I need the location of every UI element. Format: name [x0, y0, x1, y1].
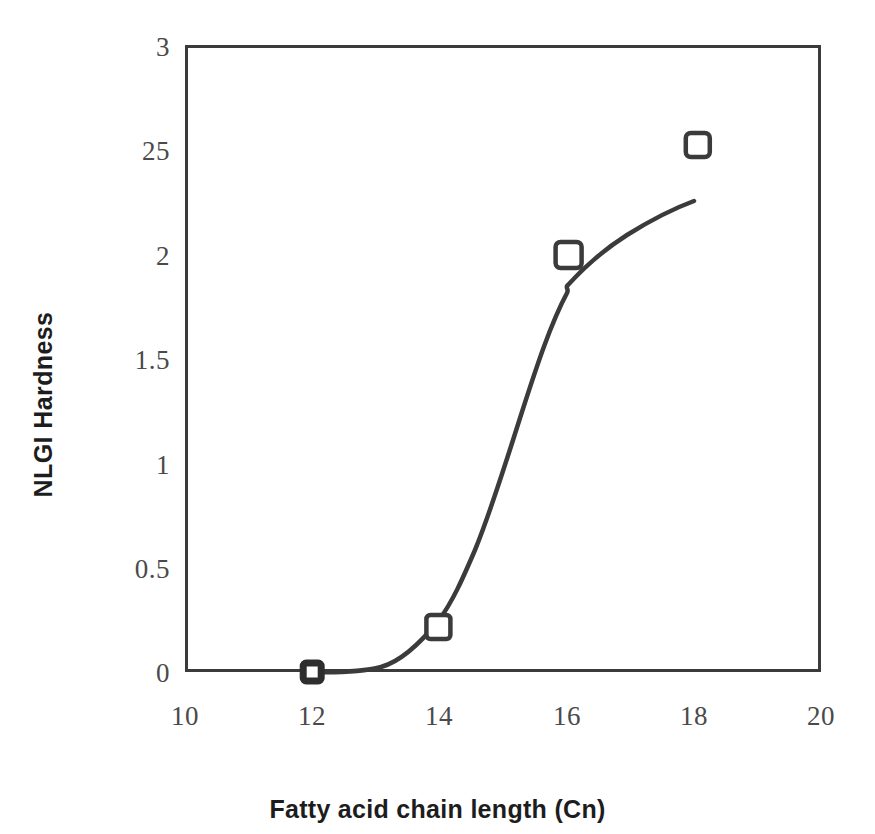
y-tick-1-5: 1.5: [98, 347, 170, 374]
series-line-path: [312, 201, 694, 672]
x-axis-title: Fatty acid chain length (Cn): [0, 795, 875, 824]
x-tick-20: 20: [776, 703, 866, 730]
y-tick-25: 25: [98, 138, 170, 165]
y-tick-1: 1: [98, 452, 170, 479]
chart-figure: 3 25 2 1.5 1 0.5 0 10 12 14 16 18 20 NLG…: [0, 0, 875, 834]
data-marker-c16: [556, 242, 582, 268]
y-tick-0-5: 0.5: [98, 556, 170, 583]
y-axis-title: NLGI Hardness: [29, 255, 58, 555]
x-axis-tick-labels: 10 12 14 16 18 20: [185, 703, 821, 743]
x-tick-12: 12: [267, 703, 357, 730]
data-marker-c18: [686, 133, 710, 157]
data-marker-c14: [426, 615, 450, 639]
data-series-layer: [185, 45, 821, 672]
y-tick-2: 2: [98, 243, 170, 270]
x-tick-16: 16: [522, 703, 612, 730]
x-tick-18: 18: [649, 703, 739, 730]
y-tick-0: 0: [98, 660, 170, 687]
x-tick-10: 10: [140, 703, 230, 730]
y-tick-3: 3: [98, 34, 170, 61]
data-marker-c12: [303, 663, 321, 681]
x-tick-14: 14: [394, 703, 484, 730]
